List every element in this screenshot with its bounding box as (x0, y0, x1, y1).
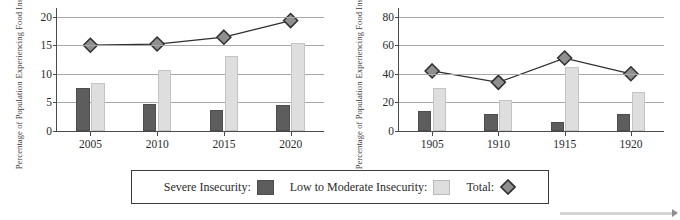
legend-item-severe: Severe Insecurity: (164, 180, 274, 195)
x-tick-label: 1910 (487, 138, 510, 150)
diamond-marker-icon (150, 37, 164, 51)
y-tick-label: 20 (383, 96, 395, 108)
y-tick-label: 40 (383, 68, 395, 80)
x-tick-mark (224, 131, 225, 136)
legend-item-low-to-moderate: Low to Moderate Insecurity: (290, 180, 451, 195)
plot-wrap-right: 0204060801905191019151920 (398, 8, 664, 132)
bar-low-to-moderate-insecurity (499, 100, 512, 131)
right-arrow-icon[interactable] (672, 209, 678, 217)
bar-severe-insecurity (276, 105, 289, 131)
y-tick-label: 20 (41, 11, 53, 23)
gridline (57, 17, 324, 18)
light-square-swatch-icon (433, 180, 450, 195)
y-axis-title-line2: Experiencing Food Insecurity (14, 0, 25, 78)
diamond-marker-icon (217, 30, 231, 44)
y-tick-label: 5 (46, 96, 52, 108)
bar-severe-insecurity (551, 122, 564, 131)
y-axis-title-line1: Percentage of Population (354, 81, 365, 169)
diamond-marker-icon (558, 51, 572, 65)
plot-area-right: 0204060801905191019151920 (398, 8, 664, 132)
y-tick-label: 10 (41, 68, 53, 80)
bar-severe-insecurity (617, 114, 630, 131)
y-axis-title-line2: Experiencing Food Insecurity (354, 0, 365, 78)
y-tick-mark (53, 102, 57, 103)
plot-wrap-left: 051015202005201020152020 (56, 8, 324, 132)
y-tick-mark (395, 102, 399, 103)
y-tick-mark (53, 74, 57, 75)
x-tick-label: 2020 (279, 138, 302, 150)
charts-row: Percentage of Population Experiencing Fo… (0, 0, 680, 168)
bar-severe-insecurity (76, 88, 89, 131)
bar-severe-insecurity (484, 114, 497, 131)
bar-low-to-moderate-insecurity (565, 67, 578, 131)
total-trend-line (432, 58, 631, 82)
x-tick-label: 2010 (146, 138, 169, 150)
y-tick-mark (53, 45, 57, 46)
y-tick-label: 0 (388, 125, 394, 137)
y-tick-label: 15 (41, 39, 53, 51)
gridline (57, 45, 324, 46)
chart-panel-left: Percentage of Population Experiencing Fo… (0, 0, 340, 168)
bar-low-to-moderate-insecurity (158, 70, 171, 131)
scroll-hint-track[interactable] (560, 212, 672, 215)
x-tick-mark (90, 131, 91, 136)
dark-square-swatch-icon (257, 180, 274, 195)
total-trend-line (90, 21, 290, 46)
legend-item-total: Total: (466, 179, 516, 195)
diamond-marker-icon (425, 64, 439, 78)
bar-low-to-moderate-insecurity (225, 56, 238, 131)
chart-panel-right: Percentage of Population Experiencing Fo… (340, 0, 680, 168)
diamond-marker-icon (500, 179, 516, 195)
y-axis-title-line1: Percentage of Population (14, 81, 25, 169)
x-tick-mark (498, 131, 499, 136)
diamond-marker-icon (491, 75, 505, 89)
gridline (399, 45, 664, 46)
y-tick-mark (395, 17, 399, 18)
gridline (399, 17, 664, 18)
gridline (399, 74, 664, 75)
y-tick-mark (53, 17, 57, 18)
x-tick-label: 2005 (79, 138, 102, 150)
bar-severe-insecurity (210, 110, 223, 131)
bar-low-to-moderate-insecurity (291, 43, 304, 131)
x-tick-mark (291, 131, 292, 136)
bar-low-to-moderate-insecurity (433, 88, 446, 131)
legend-label-low-to-moderate: Low to Moderate Insecurity: (290, 180, 428, 195)
scroll-hint[interactable] (560, 209, 678, 217)
y-tick-mark (395, 131, 399, 132)
y-axis-title-right: Percentage of Population Experiencing Fo… (344, 7, 374, 137)
y-tick-mark (395, 74, 399, 75)
y-axis-title-left: Percentage of Population Experiencing Fo… (4, 7, 34, 137)
legend-label-severe: Severe Insecurity: (164, 180, 251, 195)
x-tick-label: 2015 (212, 138, 235, 150)
legend-label-total: Total: (466, 180, 494, 195)
x-tick-mark (432, 131, 433, 136)
x-tick-mark (565, 131, 566, 136)
y-tick-mark (395, 45, 399, 46)
y-tick-label: 80 (383, 11, 395, 23)
bar-severe-insecurity (143, 104, 156, 131)
y-tick-label: 0 (46, 125, 52, 137)
x-tick-mark (157, 131, 158, 136)
chart-legend: Severe Insecurity: Low to Moderate Insec… (131, 170, 549, 204)
bar-low-to-moderate-insecurity (91, 83, 104, 131)
x-tick-mark (631, 131, 632, 136)
x-tick-label: 1920 (619, 138, 642, 150)
bar-severe-insecurity (418, 111, 431, 131)
y-tick-mark (53, 131, 57, 132)
gridline (57, 74, 324, 75)
y-tick-label: 60 (383, 39, 395, 51)
plot-area-left: 051015202005201020152020 (56, 8, 324, 132)
x-tick-label: 1905 (421, 138, 444, 150)
bar-low-to-moderate-insecurity (632, 92, 645, 131)
x-tick-label: 1915 (553, 138, 576, 150)
